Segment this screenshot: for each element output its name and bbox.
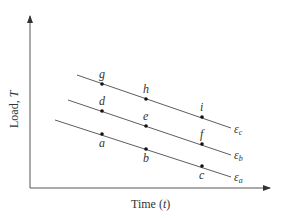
point-h bbox=[144, 97, 148, 101]
point-f bbox=[200, 142, 204, 146]
constant-strain-load-time-diagram: Time (t) Load, T g h i εc d e f εb a bbox=[0, 0, 283, 218]
label-h: h bbox=[143, 82, 149, 96]
label-eps-b: εb bbox=[234, 148, 243, 163]
label-i: i bbox=[200, 100, 203, 114]
label-g: g bbox=[99, 67, 105, 81]
x-axis-label: Time (t) bbox=[131, 197, 170, 211]
label-a: a bbox=[99, 136, 105, 150]
label-eps-c: εc bbox=[234, 122, 243, 137]
point-i bbox=[200, 115, 204, 119]
label-f: f bbox=[200, 127, 205, 141]
point-g bbox=[100, 82, 104, 86]
point-d bbox=[100, 109, 104, 113]
label-d: d bbox=[99, 94, 106, 108]
label-eps-a: εa bbox=[234, 170, 243, 185]
strain-line-eps-a: a b c εa bbox=[55, 120, 243, 185]
label-e: e bbox=[143, 109, 149, 123]
y-axis-label: Load, T bbox=[7, 89, 21, 128]
point-e bbox=[144, 124, 148, 128]
label-b: b bbox=[143, 151, 149, 165]
label-c: c bbox=[199, 168, 205, 182]
